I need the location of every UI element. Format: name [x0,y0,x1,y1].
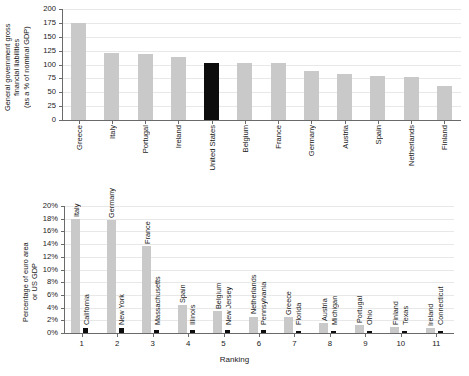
top-chart-y-tick-label: 200 [22,4,56,13]
bottom-chart-x-tick-mark [436,334,437,337]
top-chart-category-label: Belgium [241,125,250,152]
bottom-chart-ranking-tick-label: 1 [70,339,94,348]
top-chart-bar [171,57,186,120]
top-chart-gridline [62,9,461,10]
bottom-chart-bar-state [438,331,443,333]
top-chart-category-label: Spain [374,125,383,144]
top-chart-bar [337,74,352,120]
bottom-chart-euro-label: Austria [320,277,329,321]
bottom-chart-bar-euro [426,328,435,333]
top-chart-x-tick-mark [345,121,346,124]
bottom-chart-state-label: Michigan [330,267,339,325]
top-chart-x-tick-mark [411,121,412,124]
top-chart-category-label: United States [208,125,217,171]
bottom-chart-state-label: Florida [294,267,303,325]
bottom-chart-state-label: Massachusetts [153,267,162,325]
top-chart-y-tick-label: 175 [22,18,56,27]
top-chart-bar [71,23,86,120]
bottom-chart-gridline [64,219,454,220]
cropped-caption-strip [0,370,469,376]
top-chart-y-tick-label: 150 [22,32,56,41]
bottom-chart-euro-label: Belgium [214,265,223,309]
top-chart-category-label: France [274,125,283,149]
bottom-chart-ranking-tick-label: 6 [247,339,271,348]
bottom-chart-euro-label: France [143,200,152,244]
top-chart-category-label: Austria [341,125,350,149]
top-chart-bar [138,54,153,120]
top-chart-gridline [62,78,461,79]
top-chart-y-axis-line [62,9,63,120]
figure-two-panel-bar-charts: General government gross financial liabi… [0,0,469,376]
top-chart-category-label: Germany [307,125,316,156]
top-chart-plot-area [62,9,461,120]
bottom-chart-y-tick-mark [61,219,64,220]
top-chart-panel: General government gross financial liabi… [0,0,469,186]
top-chart-gridline [62,92,461,93]
top-chart-x-tick-mark [278,121,279,124]
bottom-chart-euro-label: Greece [284,271,293,315]
bottom-chart-bar-euro [71,219,80,333]
top-chart-gridline [62,51,461,52]
top-chart-category-label: Greece [75,125,84,150]
bottom-chart-state-label: Illinois [188,267,197,325]
top-chart-bar [104,53,119,120]
bottom-chart-ranking-tick-label: 10 [389,339,413,348]
bottom-chart-y-tick-label: 14% [22,239,58,248]
bottom-chart-gridline [64,257,454,258]
top-chart-y-tick-mark [59,78,62,79]
bottom-chart-bar-euro [178,305,187,333]
top-chart-gridline [62,37,461,38]
bottom-chart-bar-state [402,331,407,333]
top-chart-category-label: Portugal [141,125,150,153]
top-chart-x-tick-mark [444,121,445,124]
top-chart-x-tick-mark [378,121,379,124]
bottom-chart-bar-state [83,328,88,333]
bottom-chart-ranking-tick-label: 3 [141,339,165,348]
bottom-chart-y-tick-mark [61,270,64,271]
bottom-chart-y-tick-mark [61,244,64,245]
bottom-chart-x-tick-mark [224,334,225,337]
bottom-chart-ranking-tick-label: 11 [424,339,448,348]
bottom-chart-bar-state [331,331,336,333]
bottom-chart-euro-label: Finland [391,281,400,325]
bottom-chart-gridline [64,206,454,207]
bottom-chart-euro-label: Ireland [426,282,435,326]
top-chart-x-tick-mark [112,121,113,124]
bottom-chart-y-tick-label: 6% [22,290,58,299]
bottom-chart-x-tick-mark [117,334,118,337]
top-chart-y-tick-label: 100 [22,60,56,69]
bottom-chart-euro-label: Spain [178,259,187,303]
bottom-chart-state-label: Ohio [365,267,374,325]
bottom-chart-y-tick-label: 0% [22,328,58,337]
bottom-chart-euro-label: Portugal [355,279,364,323]
bottom-chart-euro-label: Italy [72,173,81,217]
bottom-chart-bar-euro [213,311,222,333]
top-chart-y-tick-label: 25 [22,101,56,110]
bottom-chart-x-tick-mark [259,334,260,337]
top-chart-x-tick-mark [212,121,213,124]
bottom-chart-y-tick-label: 2% [22,315,58,324]
bottom-chart-x-tick-mark [330,334,331,337]
bottom-chart-bar-state [296,331,301,333]
top-chart-y-tick-label: 0 [22,115,56,124]
bottom-chart-y-tick-label: 18% [22,214,58,223]
top-chart-gridline [62,106,461,107]
top-chart-bar [304,71,319,120]
top-chart-gridline [62,23,461,24]
bottom-chart-state-label: New York [117,267,126,325]
top-chart-bar [370,76,385,120]
bottom-chart-state-label: New Jersey [224,267,233,325]
top-chart-bar [204,63,219,120]
bottom-chart-ranking-tick-label: 8 [318,339,342,348]
bottom-chart-state-label: Connecticut [436,267,445,325]
bottom-chart-ranking-tick-label: 9 [353,339,377,348]
bottom-chart-x-axis-label: Ranking [0,355,469,364]
top-chart-y-tick-label: 75 [22,73,56,82]
top-chart-y-tick-label: 50 [22,87,56,96]
top-chart-category-label: Finland [440,125,449,150]
top-chart-x-tick-mark [79,121,80,124]
bottom-chart-x-tick-mark [294,334,295,337]
top-chart-y-tick-mark [59,65,62,66]
bottom-chart-y-tick-label: 20% [22,201,58,210]
bottom-chart-y-tick-mark [61,333,64,334]
